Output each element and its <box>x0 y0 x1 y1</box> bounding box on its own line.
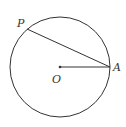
label-a: A <box>112 61 121 74</box>
label-o: O <box>52 73 61 86</box>
circle-diagram: P O A <box>0 0 126 127</box>
center-point <box>59 66 62 69</box>
label-p: P <box>16 17 25 30</box>
